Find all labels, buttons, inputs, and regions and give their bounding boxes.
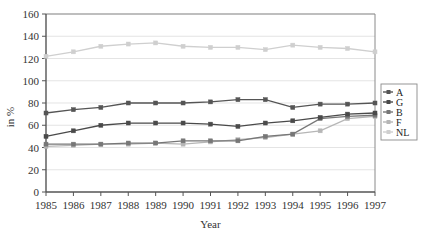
data-point — [209, 122, 213, 126]
data-point — [318, 115, 322, 119]
data-point — [181, 121, 185, 125]
data-point — [99, 123, 103, 127]
data-point — [71, 142, 75, 146]
y-tick-label: 60 — [28, 119, 40, 131]
y-tick-label: 80 — [28, 97, 40, 109]
x-tick-label: 1994 — [282, 199, 305, 211]
data-point — [373, 101, 377, 105]
data-point — [181, 101, 185, 105]
data-point — [154, 41, 158, 45]
data-point — [126, 101, 130, 105]
legend-label-NL: NL — [396, 127, 409, 138]
legend[interactable]: AGBFNL — [381, 84, 417, 140]
data-point — [263, 48, 267, 52]
x-tick-label: 1986 — [62, 199, 85, 211]
chart-canvas: 020406080100120140160in %198519861987198… — [0, 0, 422, 244]
data-point — [126, 141, 130, 145]
data-point — [236, 124, 240, 128]
data-point — [209, 100, 213, 104]
x-tick-label: 1987 — [90, 199, 113, 211]
data-point — [263, 98, 267, 102]
series-G — [44, 111, 377, 138]
y-tick-label: 140 — [23, 30, 40, 42]
data-point — [373, 111, 377, 115]
y-tick-label: 160 — [23, 8, 40, 20]
x-tick-label: 1985 — [35, 199, 58, 211]
data-point — [181, 139, 185, 143]
series-NL — [44, 41, 377, 58]
legend-swatch-marker-G — [387, 100, 391, 104]
x-axis: 1985198619871988198919901991199219931994… — [35, 192, 387, 211]
data-point — [346, 46, 350, 50]
data-point — [99, 44, 103, 48]
x-tick-label: 1990 — [172, 199, 195, 211]
gridlines — [46, 14, 375, 170]
x-tick-label: 1993 — [254, 199, 277, 211]
x-tick-label: 1996 — [337, 199, 360, 211]
data-point — [181, 44, 185, 48]
data-point — [154, 141, 158, 145]
data-point — [346, 102, 350, 106]
data-point — [71, 108, 75, 112]
series-F — [44, 114, 377, 148]
legend-swatch-marker-A — [387, 90, 391, 94]
x-tick-label: 1991 — [200, 199, 222, 211]
data-point — [44, 54, 48, 58]
legend-swatch-marker-F — [387, 120, 391, 124]
data-point — [373, 50, 377, 54]
data-point — [291, 119, 295, 123]
data-point — [291, 43, 295, 47]
data-point — [44, 111, 48, 115]
x-tick-label: 1995 — [309, 199, 332, 211]
data-point — [318, 45, 322, 49]
data-point — [236, 45, 240, 49]
x-tick-label: 1988 — [117, 199, 140, 211]
data-point — [236, 98, 240, 102]
data-point — [126, 42, 130, 46]
data-point — [126, 121, 130, 125]
y-tick-label: 20 — [28, 164, 40, 176]
data-point — [209, 139, 213, 143]
data-point — [291, 105, 295, 109]
y-axis: 020406080100120140160 — [23, 8, 47, 198]
line-chart: 020406080100120140160in %198519861987198… — [0, 0, 422, 244]
data-point — [71, 129, 75, 133]
y-axis-title: in % — [4, 107, 16, 127]
series-A — [44, 98, 377, 115]
data-point — [44, 134, 48, 138]
x-tick-label: 1989 — [145, 199, 168, 211]
series-B — [44, 113, 377, 146]
x-tick-label: 1992 — [227, 199, 249, 211]
data-point — [263, 134, 267, 138]
y-tick-label: 40 — [28, 142, 40, 154]
data-point — [346, 112, 350, 116]
data-point — [99, 105, 103, 109]
data-point — [154, 121, 158, 125]
data-point — [291, 132, 295, 136]
data-point — [263, 121, 267, 125]
y-tick-label: 120 — [23, 53, 40, 65]
legend-swatch-marker-B — [387, 110, 391, 114]
y-tick-label: 0 — [34, 186, 40, 198]
data-point — [44, 142, 48, 146]
data-point — [318, 102, 322, 106]
data-point — [209, 45, 213, 49]
data-point — [99, 142, 103, 146]
y-tick-label: 100 — [23, 75, 40, 87]
data-point — [71, 50, 75, 54]
x-tick-label: 1997 — [364, 199, 387, 211]
x-axis-title: Year — [200, 218, 221, 230]
data-point — [318, 129, 322, 133]
data-point — [154, 101, 158, 105]
legend-swatch-marker-NL — [387, 130, 391, 134]
data-point — [236, 139, 240, 143]
